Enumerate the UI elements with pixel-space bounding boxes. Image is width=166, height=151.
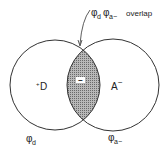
annotation-arrow [80,10,90,44]
acceptor-charge: − [118,78,123,87]
phi-d-subscript: d [32,139,36,146]
overlap-annotation-text: overlap [126,9,153,18]
donor-label: D [40,81,47,92]
phi-a-subscript: a− [114,138,122,145]
overlap-phi2-sub: a− [109,13,117,20]
overlap-phi1-sub: d [97,13,101,20]
venn-diagram: − + D A − φ d φ a− φ d φ a− overlap [0,0,166,151]
overlap-sign: − [78,76,83,85]
acceptor-label: A [111,81,118,92]
